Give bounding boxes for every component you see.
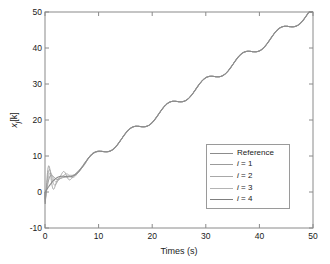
y-tick-label: 0 [18,188,42,197]
legend-line-swatch [209,183,234,193]
legend-item[interactable]: i = 4 [209,193,286,205]
y-axis-label-bracket: [k] [9,112,19,122]
legend-item-label: i = 1 [234,160,252,168]
x-tick-label: 10 [94,232,103,241]
y-tick-label: 30 [18,80,42,89]
y-axis-label-base: x [9,123,19,128]
legend-item[interactable]: i = 3 [209,182,286,194]
legend-item[interactable]: i = 1 [209,159,286,171]
legend-item-label: i = 3 [234,184,252,192]
legend-item-label: i = 4 [234,195,252,203]
legend-item-label: Reference [234,149,274,157]
legend-line-swatch [209,159,234,169]
x-tick-label: 0 [43,232,48,241]
y-tick-label: 10 [18,152,42,161]
plot-area [0,0,330,264]
y-tick-label: 50 [18,8,42,17]
legend-line-swatch [209,148,234,158]
legend-item[interactable]: i = 2 [209,170,286,182]
y-axis-label-sub: j [14,122,21,124]
legend-box[interactable]: Referencei = 1i = 2i = 3i = 4 [206,144,290,209]
y-axis-label: xj[k] [9,112,21,128]
y-axis-label-wrap: xj[k] [2,120,16,134]
legend-item[interactable]: Reference [209,147,286,159]
legend-line-swatch [209,171,234,181]
legend-line-swatch [209,194,234,204]
y-tick-label: -10 [18,224,42,233]
y-tick-label: 40 [18,44,42,53]
x-axis-label: Times (s) [160,246,197,256]
x-tick-label: 40 [255,232,264,241]
figure-canvas: 01020304050 -1001020304050 Times (s) xj[… [0,0,330,264]
legend-item-label: i = 2 [234,172,252,180]
x-tick-label: 50 [308,232,317,241]
x-tick-label: 30 [201,232,210,241]
x-tick-label: 20 [147,232,156,241]
y-tick-label: 20 [18,116,42,125]
